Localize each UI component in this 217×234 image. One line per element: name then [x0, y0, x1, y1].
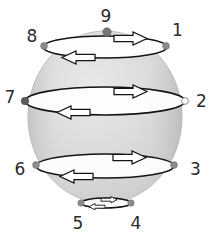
node-label-1: 1 — [172, 20, 183, 40]
node-label-8: 8 — [27, 26, 38, 46]
node-label-5: 5 — [73, 213, 84, 233]
node-marker-2[interactable] — [182, 98, 189, 105]
node-label-9: 9 — [101, 6, 112, 26]
loop-path-lower — [36, 154, 174, 178]
node-marker-7[interactable] — [21, 97, 29, 105]
sphere-diagram: 1 2 3 4 5 6 7 8 9 — [0, 0, 217, 234]
loop-path-upper — [43, 36, 167, 58]
node-label-2: 2 — [196, 91, 207, 111]
node-marker-1[interactable] — [163, 43, 170, 50]
node-marker-4[interactable] — [128, 200, 134, 206]
node-marker-6[interactable] — [33, 162, 40, 169]
figure-container: 1 2 3 4 5 6 7 8 9 — [0, 0, 217, 234]
node-marker-3[interactable] — [171, 162, 178, 169]
node-label-3: 3 — [190, 159, 201, 179]
node-marker-9[interactable] — [103, 28, 111, 36]
node-marker-5[interactable] — [78, 200, 84, 206]
node-label-4: 4 — [131, 213, 142, 233]
loop-path-equator — [25, 87, 185, 115]
node-marker-8[interactable] — [41, 43, 48, 50]
node-label-6: 6 — [15, 159, 26, 179]
node-label-7: 7 — [5, 87, 16, 107]
